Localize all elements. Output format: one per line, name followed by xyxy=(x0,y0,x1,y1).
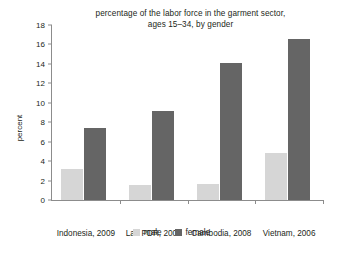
y-axis-tick-mark xyxy=(48,63,52,64)
y-axis-tick-mark xyxy=(48,161,52,162)
y-axis-tick-mark xyxy=(48,122,52,123)
y-axis-tick-mark xyxy=(48,141,52,142)
legend-label-male: male xyxy=(144,228,162,237)
legend-label-female: female xyxy=(186,228,211,237)
y-axis-tick-mark xyxy=(48,25,52,26)
y-axis-tick-label: 8 xyxy=(6,118,52,127)
legend-item-male: male xyxy=(133,228,162,237)
bar-female-3 xyxy=(288,39,310,200)
y-axis-tick-mark xyxy=(48,83,52,84)
y-axis-tick-mark xyxy=(48,102,52,103)
bar-male-1 xyxy=(129,185,151,200)
bar-male-0 xyxy=(61,169,83,200)
y-axis-tick-label: 0 xyxy=(6,196,52,205)
bar-female-2 xyxy=(220,63,242,200)
y-axis-tick-mark xyxy=(48,180,52,181)
y-axis-tick-label: 14 xyxy=(6,59,52,68)
chart-title-line-1: percentage of the labor force in the gar… xyxy=(48,8,333,19)
bar-male-3 xyxy=(265,153,287,200)
y-axis-line xyxy=(51,25,52,201)
y-axis-tick-mark xyxy=(48,44,52,45)
y-axis-tick-label: 10 xyxy=(6,98,52,107)
y-axis-tick-mark xyxy=(48,200,52,201)
plot-area: 024681012141618 Indonesia, 2009Lao PDR, … xyxy=(52,25,323,200)
y-axis-tick-label: 12 xyxy=(6,79,52,88)
legend-swatch-female xyxy=(175,229,182,236)
x-axis-tick-mark xyxy=(188,200,189,204)
y-axis-tick-label: 4 xyxy=(6,157,52,166)
y-axis-tick-label: 18 xyxy=(6,21,52,30)
x-axis-tick-mark xyxy=(120,200,121,204)
x-axis-tick-mark xyxy=(255,200,256,204)
y-axis-tick-label: 16 xyxy=(6,40,52,49)
chart-figure: percentage of the labor force in the gar… xyxy=(0,0,343,255)
legend-swatch-male xyxy=(133,229,140,236)
bar-female-1 xyxy=(152,111,174,200)
chart-legend: malefemale xyxy=(0,228,343,237)
bar-male-2 xyxy=(197,184,219,200)
y-axis-tick-label: 2 xyxy=(6,176,52,185)
bar-female-0 xyxy=(84,128,106,200)
legend-item-female: female xyxy=(175,228,211,237)
y-axis-tick-label: 6 xyxy=(6,137,52,146)
x-axis-tick-mark xyxy=(323,200,324,204)
